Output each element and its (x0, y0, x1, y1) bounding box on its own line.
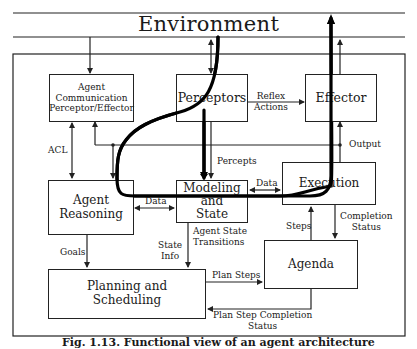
perceptors-box[interactable]: Perceptors (176, 74, 248, 122)
edge-label-output: Output (349, 139, 381, 150)
edge-label-data-left: Data (145, 196, 167, 207)
edge-label-agent-state-transitions: Agent State Transitions (193, 226, 247, 249)
completion-line-2: Status (352, 222, 381, 232)
edge-label-completion-status: Completion Status (340, 211, 393, 234)
modeling-state-box[interactable]: Modeling and State (176, 180, 248, 223)
pscs-line-1: Plan Step Completion (213, 310, 312, 320)
acpe-line-2: Communication (49, 93, 133, 103)
effector-label: Effector (316, 91, 367, 105)
planning-line-2: Scheduling (87, 294, 167, 308)
environment-label: Environment (0, 12, 417, 36)
edge-label-state-info: State Info (158, 240, 182, 263)
planning-scheduling-box[interactable]: Planning and Scheduling (48, 269, 206, 319)
acpe-line-1: Agent (49, 82, 133, 92)
edge-label-acl: ACL (48, 145, 67, 156)
ast-line-2: Transitions (193, 237, 244, 247)
state-info-line-2: Info (161, 251, 179, 261)
reflex-label-line-2: Actions (254, 102, 288, 112)
ast-line-1: Agent State (193, 226, 247, 236)
modeling-state-line-3: State (183, 208, 240, 221)
state-info-line-1: State (158, 240, 182, 250)
agenda-box[interactable]: Agenda (264, 240, 358, 289)
reflex-label-line-1: Reflex (257, 91, 286, 101)
execution-label: Execution (299, 177, 360, 191)
completion-line-1: Completion (340, 211, 393, 221)
perceptors-label: Perceptors (178, 91, 247, 105)
edge-label-percepts: Percepts (217, 156, 257, 167)
effector-box[interactable]: Effector (305, 74, 377, 122)
agent-reasoning-line-2: Reasoning (59, 208, 123, 222)
agenda-label: Agenda (288, 258, 334, 272)
agent-reasoning-box[interactable]: Agent Reasoning (48, 180, 134, 235)
figure-caption: Fig. 1.13. Functional view of an agent a… (62, 336, 375, 349)
pscs-line-2: Status (248, 321, 277, 331)
edge-label-reflex-actions: Reflex Actions (254, 91, 288, 114)
acpe-line-3: Perceptor/Effector (49, 103, 133, 113)
agent-reasoning-line-1: Agent (59, 194, 123, 208)
acpe-box[interactable]: Agent Communication Perceptor/Effector (49, 74, 134, 122)
planning-line-1: Planning and (87, 280, 167, 294)
edge-label-plan-steps: Plan Steps (212, 270, 260, 281)
edge-label-goals: Goals (60, 247, 85, 258)
edge-label-steps: Steps (286, 221, 312, 232)
edge-label-data-right: Data (256, 178, 278, 189)
execution-box[interactable]: Execution (282, 162, 376, 205)
edge-label-plan-step-completion-status: Plan Step Completion Status (213, 310, 312, 333)
